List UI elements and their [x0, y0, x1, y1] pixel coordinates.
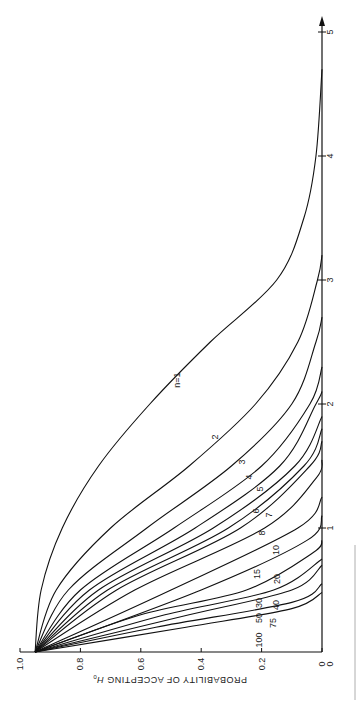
arrow-icon: [319, 16, 325, 26]
curve-label: 10: [271, 545, 281, 555]
curve-label: 40: [271, 600, 281, 610]
curve-label: 5: [255, 486, 265, 491]
y-tick-label: 0.4: [196, 658, 206, 671]
curve-label: 8: [257, 530, 267, 535]
curve-label: 4: [244, 474, 254, 479]
y-tick-label: 0: [317, 661, 327, 666]
curve-label: 100: [254, 632, 264, 647]
y-tick-label: 1.0: [15, 658, 25, 671]
svg-text:PROBABILITY OF ACCEPTING H0: PROBABILITY OF ACCEPTING H0: [93, 674, 247, 685]
curve-label: 20: [272, 574, 282, 584]
y-tick-label: 0.6: [136, 658, 146, 671]
oc-curve-chart: 01234500.20.40.60.81.0 n=123456781015203…: [0, 0, 361, 707]
curve-label: 2: [210, 434, 220, 439]
oc-curve-n-30: [35, 540, 322, 652]
x-tick-label: 4: [325, 153, 335, 158]
curves: [35, 69, 322, 652]
curve-label: 30: [254, 598, 264, 608]
curve-label: 6: [251, 508, 261, 513]
x-tick-label: 1: [325, 525, 335, 530]
oc-curve-n-7: [35, 429, 322, 652]
oc-curve-n-n=1: [35, 69, 322, 652]
curve-label: n=1: [172, 372, 182, 387]
y-axis-title: PROBABILITY OF ACCEPTING H0: [93, 674, 247, 685]
curve-label: 75: [268, 618, 278, 628]
y-tick-label: 0.8: [75, 658, 85, 671]
curve-label: 50: [254, 613, 264, 623]
axes: 01234500.20.40.60.81.0: [15, 16, 335, 670]
curve-label: 3: [237, 459, 247, 464]
x-tick-label: 5: [325, 29, 335, 34]
curve-label: 7: [264, 512, 274, 517]
curve-label: 15: [252, 569, 262, 579]
x-tick-label: 3: [325, 277, 335, 282]
y-tick-label: 0.2: [257, 658, 267, 671]
x-tick-label: 2: [325, 401, 335, 406]
